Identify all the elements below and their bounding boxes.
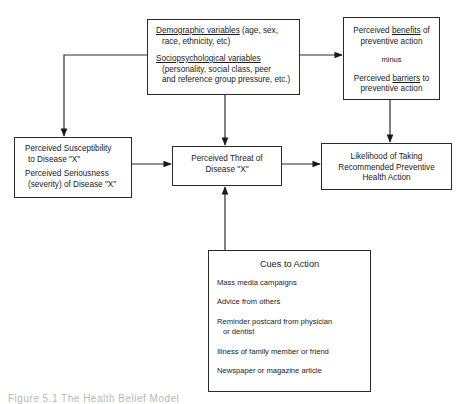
modifying-factors-box: Demographic variables (age, sex, race, e… — [147, 19, 300, 95]
cues-to-action-box: Cues to Action Mass media campaigns Advi… — [208, 250, 371, 392]
cues-title: Cues to Action — [217, 259, 370, 270]
minus-label: minus — [344, 55, 439, 66]
cue-item: Advice from others — [217, 297, 370, 308]
susceptibility-seriousness-box: Perceived Susceptibility to Disease "X" … — [14, 137, 132, 198]
arrow-demographic-to-susceptibility — [64, 55, 147, 136]
cue-item: Mass media campaigns — [217, 278, 370, 289]
sociopsychological-variables-label: Sociopsychological variables — [156, 54, 261, 63]
demographic-variables-label: Demographic variables — [156, 26, 240, 35]
cue-item: Newspaper or magazine article — [217, 366, 370, 377]
cue-item: Reminder postcard from physician — [217, 317, 370, 328]
cue-item-continuation: or dentist — [217, 327, 370, 338]
perceived-threat-box: Perceived Threat of Disease "X" — [172, 146, 282, 186]
cue-item: Illness of family member or friend — [217, 347, 370, 358]
benefits-barriers-box: Perceived benefits of preventive action … — [343, 17, 440, 100]
benefits-label: benefits — [392, 26, 421, 35]
figure-caption: Figure 5.1 The Health Belief Model — [8, 393, 179, 404]
likelihood-of-action-box: Likelihood of Taking Recommended Prevent… — [321, 143, 452, 190]
barriers-label: barriers — [392, 74, 420, 83]
